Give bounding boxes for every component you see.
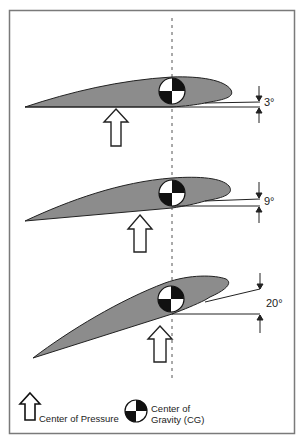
airfoil-20deg	[33, 276, 229, 358]
panel-3-degrees	[25, 77, 262, 146]
legend-cg-line2: Gravity (CG)	[151, 414, 204, 425]
legend-cg-icon	[125, 400, 147, 422]
angle-marker	[256, 182, 262, 223]
airfoil-diagram: 3° 9° 20° Center of Pressure Center of G…	[0, 0, 302, 439]
frame-border	[10, 11, 295, 434]
airfoil-9deg	[25, 177, 230, 221]
pressure-arrow-icon	[148, 326, 172, 362]
cg-icon	[159, 180, 185, 206]
legend-center-of-pressure: Center of Pressure	[39, 413, 119, 424]
angle-label-9: 9°	[264, 196, 275, 207]
angle-marker	[256, 86, 262, 123]
angle-label-3: 3°	[264, 97, 275, 108]
panel-9-degrees	[25, 177, 262, 252]
cg-icon	[158, 286, 184, 312]
diagram-canvas	[0, 0, 302, 439]
angle-label-20: 20°	[266, 298, 283, 309]
angle-marker	[257, 273, 263, 333]
pressure-arrow-icon	[104, 109, 128, 146]
cg-icon	[159, 78, 185, 104]
pressure-arrow-icon	[128, 215, 152, 252]
legend-cg-line1: Center of	[151, 403, 190, 414]
legend-pressure-arrow-icon	[20, 393, 40, 420]
airfoil-3deg	[25, 77, 232, 107]
panel-20-degrees	[33, 273, 263, 362]
